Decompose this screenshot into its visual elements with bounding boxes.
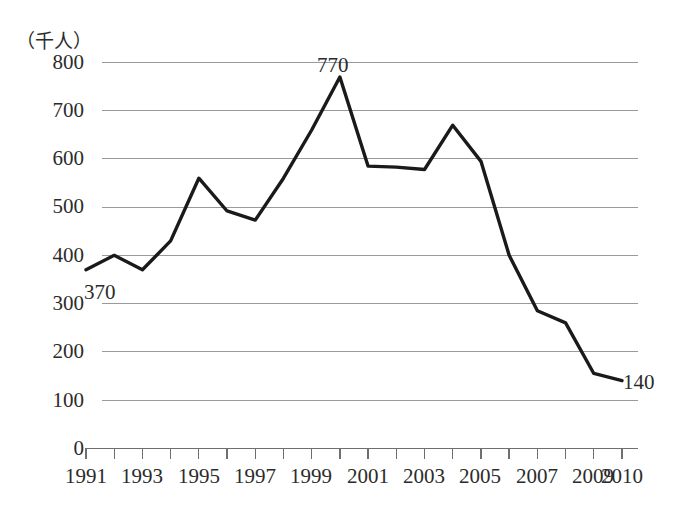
y-tick-label-200: 200 xyxy=(20,341,84,362)
y-tick-label-800: 800 xyxy=(20,52,84,73)
y-tick-label-0: 0 xyxy=(20,438,84,459)
data-label-end: 140 xyxy=(623,372,655,393)
line-chart: （千人） xyxy=(0,0,684,510)
data-label-peak: 770 xyxy=(317,55,349,76)
x-tick-label-1997: 1997 xyxy=(226,466,284,487)
data-label-start: 370 xyxy=(84,282,116,303)
x-tick-label-2001: 2001 xyxy=(339,466,397,487)
y-tick-label-700: 700 xyxy=(20,100,84,121)
x-tick-label-1999: 1999 xyxy=(282,466,340,487)
data-series-line xyxy=(86,77,622,381)
y-tick-label-400: 400 xyxy=(20,245,84,266)
x-tick-label-2010: 2010 xyxy=(593,466,651,487)
y-tick-label-100: 100 xyxy=(20,390,84,411)
gridlines xyxy=(102,63,638,401)
y-tick-label-300: 300 xyxy=(20,293,84,314)
x-tick-label-2005: 2005 xyxy=(451,466,509,487)
x-tick-label-1991: 1991 xyxy=(57,466,115,487)
y-tick-label-500: 500 xyxy=(20,196,84,217)
x-axis-ticks xyxy=(86,448,622,458)
x-tick-label-2007: 2007 xyxy=(508,466,566,487)
x-tick-label-2003: 2003 xyxy=(395,466,453,487)
x-tick-label-1995: 1995 xyxy=(170,466,228,487)
x-tick-label-1993: 1993 xyxy=(113,466,171,487)
y-tick-label-600: 600 xyxy=(20,148,84,169)
